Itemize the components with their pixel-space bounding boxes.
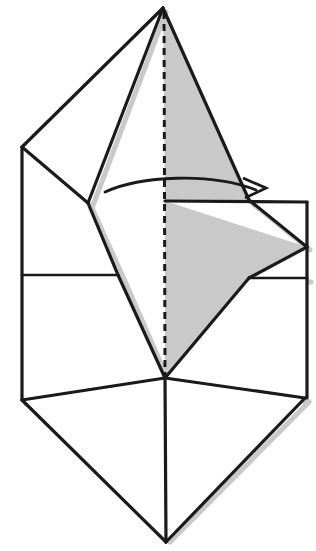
edge-horizontal-crease-right: [165, 201, 307, 202]
origami-figure-svg: [0, 0, 316, 551]
origami-diagram: [0, 0, 316, 551]
edge-center-spine-lower: [165, 378, 166, 542]
